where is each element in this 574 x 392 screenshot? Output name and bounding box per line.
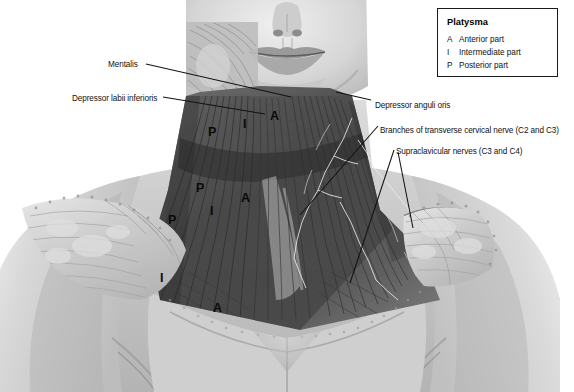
label-transverse-cervical-nerve: Branches of transverse cervical nerve (C… (380, 127, 559, 135)
marker-intermediate-lower: I (160, 272, 163, 285)
marker-posterior-upper: P (208, 126, 216, 139)
marker-posterior-lower: P (168, 214, 176, 227)
legend-row-anterior: AAnterior part (447, 35, 504, 44)
right-nostril (292, 30, 302, 37)
label-supraclavicular-nerves: Supraclavicular nerves (C3 and C4) (396, 148, 522, 156)
parotid-region (196, 44, 230, 88)
legend-label-anterior: Anterior part (459, 35, 504, 44)
legend-row-intermediate: IIntermediate part (447, 48, 521, 57)
legend-key-anterior: A (447, 35, 459, 44)
legend-key-posterior: P (447, 61, 459, 70)
marker-intermediate-middle: I (210, 205, 213, 218)
legend-key-intermediate: I (447, 48, 459, 57)
marker-anterior-lower: A (213, 302, 222, 315)
marker-intermediate-upper: I (243, 118, 246, 131)
figure-canvas: Mentalis Depressor labii inferioris Depr… (0, 0, 574, 392)
label-depressor-anguli-oris: Depressor anguli oris (375, 102, 450, 110)
legend-box: Platysma AAnterior part IIntermediate pa… (437, 8, 558, 77)
legend-label-intermediate: Intermediate part (459, 48, 521, 57)
label-mentalis: Mentalis (108, 61, 138, 69)
marker-anterior-middle: A (241, 192, 250, 205)
marker-posterior-middle: P (196, 182, 204, 195)
label-depressor-labii-inferioris: Depressor labii inferioris (72, 95, 157, 103)
marker-anterior-upper: A (270, 110, 279, 123)
legend-label-posterior: Posterior part (459, 61, 508, 70)
legend-row-posterior: PPosterior part (447, 61, 508, 70)
legend-title: Platysma (447, 17, 488, 27)
left-nostril (273, 30, 283, 37)
